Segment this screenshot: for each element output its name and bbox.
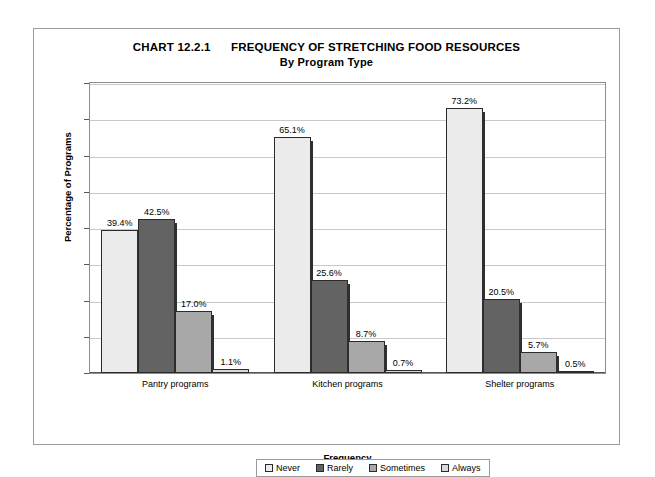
legend-swatch-icon xyxy=(265,464,273,472)
bar-group: 65.1%25.6%8.7%0.7% xyxy=(274,83,422,373)
legend-swatch-icon xyxy=(316,464,324,472)
bar: 1.1% xyxy=(212,369,249,373)
bar-value-label: 65.1% xyxy=(279,125,305,135)
y-axis-tick xyxy=(84,264,89,265)
x-axis-category-label: Pantry programs xyxy=(142,379,209,389)
y-axis-title: Percentage of Programs xyxy=(62,132,73,242)
chart-frame: CHART 12.2.1 FREQUENCY OF STRETCHING FOO… xyxy=(33,28,620,445)
y-axis-tick xyxy=(84,337,89,338)
bar: 5.7% xyxy=(520,352,557,373)
plot-area: 80.0%70.0%60.0%50.0%40.0%30.0%20.0%10.0%… xyxy=(89,82,606,374)
bar: 39.4% xyxy=(101,230,138,373)
legend-item-label: Sometimes xyxy=(380,463,425,473)
bar: 20.5% xyxy=(483,299,520,373)
legend-swatch-icon xyxy=(369,464,377,472)
bar: 42.5% xyxy=(138,219,175,373)
bar-value-label: 39.4% xyxy=(107,218,133,228)
bar-group: 73.2%20.5%5.7%0.5% xyxy=(446,83,594,373)
bar: 65.1% xyxy=(274,137,311,373)
legend-item-label: Always xyxy=(452,463,481,473)
legend-item-label: Never xyxy=(276,463,300,473)
legend-item[interactable]: Rarely xyxy=(316,463,353,473)
y-axis-tick xyxy=(84,83,89,84)
bar-value-label: 25.6% xyxy=(316,268,342,278)
bar-value-label: 17.0% xyxy=(181,299,207,309)
bar: 8.7% xyxy=(348,341,385,373)
bar-group: 39.4%42.5%17.0%1.1% xyxy=(101,83,249,373)
y-axis-tick xyxy=(84,119,89,120)
legend-item[interactable]: Always xyxy=(441,463,481,473)
bar: 25.6% xyxy=(311,280,348,373)
chart-title: CHART 12.2.1 FREQUENCY OF STRETCHING FOO… xyxy=(34,41,619,53)
legend-item-label: Rarely xyxy=(327,463,353,473)
bar-value-label: 8.7% xyxy=(356,329,377,339)
y-axis-tick xyxy=(84,228,89,229)
x-axis-category-label: Shelter programs xyxy=(485,379,554,389)
bar: 17.0% xyxy=(175,311,212,373)
bar-value-label: 0.7% xyxy=(393,358,414,368)
bar-value-label: 20.5% xyxy=(489,287,515,297)
bar-value-label: 42.5% xyxy=(144,207,170,217)
legend-item[interactable]: Never xyxy=(265,463,300,473)
bar: 0.7% xyxy=(385,370,422,373)
bar: 73.2% xyxy=(446,108,483,373)
chart-subtitle: By Program Type xyxy=(34,56,619,68)
bar: 0.5% xyxy=(557,371,594,373)
bar-value-label: 73.2% xyxy=(452,96,478,106)
legend-swatch-icon xyxy=(441,464,449,472)
bar-value-label: 0.5% xyxy=(565,359,586,369)
chart-title-block: CHART 12.2.1 FREQUENCY OF STRETCHING FOO… xyxy=(34,41,619,68)
y-axis-tick xyxy=(84,373,89,374)
y-axis-tick xyxy=(84,156,89,157)
bar-value-label: 1.1% xyxy=(220,357,241,367)
y-axis-tick xyxy=(84,301,89,302)
chart-legend: NeverRarelySometimesAlways xyxy=(256,459,490,477)
y-axis-tick xyxy=(84,192,89,193)
bar-value-label: 5.7% xyxy=(528,340,549,350)
x-axis-category-label: Kitchen programs xyxy=(312,379,383,389)
legend-item[interactable]: Sometimes xyxy=(369,463,425,473)
